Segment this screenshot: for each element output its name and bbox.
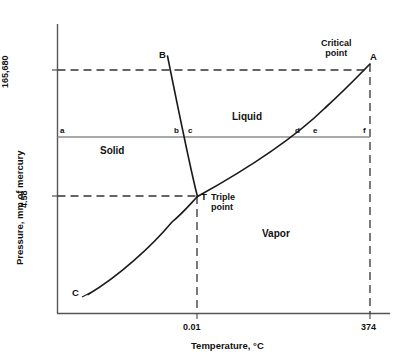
point-label-T: T (201, 192, 207, 203)
phase-diagram-figure: 165,680 4.58 Pressure, mm of mercury 0.0… (0, 0, 400, 358)
isobar-point-e: e (313, 126, 317, 135)
isobar-point-f: f (363, 126, 366, 135)
region-label-solid: Solid (100, 145, 124, 157)
isobar-point-d: d (295, 126, 300, 135)
y-axis-title: Pressure, mm of mercury (15, 150, 26, 265)
isobar-point-a: a (60, 126, 64, 135)
triple-point-line2: point (211, 202, 235, 212)
isobar-point-b: b (174, 126, 179, 135)
critical-point-line2: point (321, 48, 352, 58)
x-tick-label-374: 374 (361, 322, 376, 332)
x-tick-label-0-01: 0.01 (183, 322, 201, 332)
point-label-B: B (159, 50, 166, 61)
critical-point-annotation: Critical point (321, 38, 352, 59)
triple-point-line1: Triple (211, 192, 235, 202)
region-label-liquid: Liquid (232, 111, 262, 123)
critical-point-line1: Critical (321, 38, 352, 48)
x-axis-title: Temperature, °C (191, 341, 264, 352)
region-label-vapor: Vapor (262, 228, 290, 240)
point-label-A: A (370, 52, 377, 63)
isobar-point-c: c (188, 126, 192, 135)
point-label-C: C (72, 288, 79, 299)
triple-point-annotation: Triple point (211, 192, 235, 213)
